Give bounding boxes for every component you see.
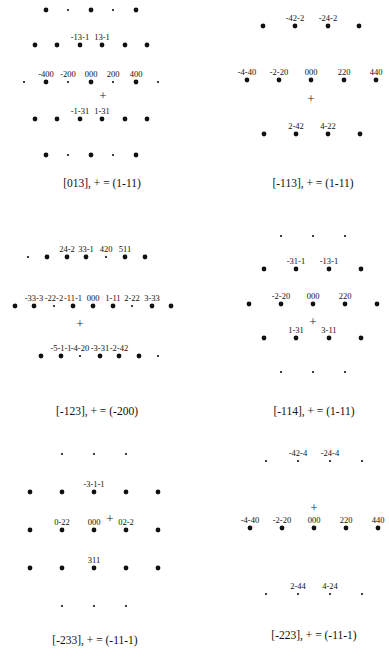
spot-index-label: 2-22 bbox=[124, 293, 140, 303]
panel-minus223: +-42-4-24-4-4-40-2-200002204402-444-24 bbox=[241, 448, 385, 595]
diffraction-spot bbox=[374, 78, 379, 83]
spot-index-label: 220 bbox=[339, 291, 352, 301]
diffraction-spot-weak bbox=[312, 235, 314, 237]
diffraction-spot bbox=[92, 566, 97, 571]
diffraction-spot-weak bbox=[265, 460, 267, 462]
spot-index-label: -4-20 bbox=[71, 343, 89, 353]
spot-index-label: -13-1 bbox=[71, 32, 89, 42]
diffraction-spot bbox=[344, 526, 349, 531]
spot-index-label: -24-4 bbox=[321, 448, 340, 458]
diffraction-spot bbox=[28, 490, 33, 495]
diffraction-spot-weak bbox=[297, 593, 299, 595]
spot-index-label: -400 bbox=[38, 69, 54, 79]
diffraction-spot-weak bbox=[361, 593, 363, 595]
spot-index-label: -2-42 bbox=[110, 343, 128, 353]
diffraction-spot bbox=[91, 304, 96, 309]
diffraction-spot bbox=[32, 304, 37, 309]
spot-index-label: -200 bbox=[60, 69, 76, 79]
plus-marker: + bbox=[309, 314, 316, 329]
spot-index-label: 440 bbox=[370, 67, 383, 77]
diffraction-spot-weak bbox=[344, 235, 346, 237]
diffraction-spot-weak bbox=[53, 305, 55, 307]
spot-index-label: 000 bbox=[85, 69, 98, 79]
diffraction-spot bbox=[145, 117, 150, 122]
diffraction-spot bbox=[60, 528, 65, 533]
diffraction-spot bbox=[150, 304, 155, 309]
spot-index-label: 000 bbox=[305, 67, 318, 77]
diffraction-spot bbox=[28, 528, 33, 533]
diffraction-spot-weak bbox=[112, 81, 114, 83]
diffraction-spot bbox=[277, 78, 282, 83]
spot-index-label: 511 bbox=[119, 244, 131, 254]
diffraction-spot-weak bbox=[67, 81, 69, 83]
spot-index-label: 33-1 bbox=[78, 244, 94, 254]
diffraction-spot bbox=[78, 43, 83, 48]
diffraction-spot bbox=[89, 8, 94, 13]
diffraction-spot-weak bbox=[157, 81, 159, 83]
spot-index-label: 3-11 bbox=[321, 325, 336, 335]
spot-index-label: -3-1-1 bbox=[83, 479, 104, 489]
diffraction-spot bbox=[123, 255, 128, 260]
spot-index-label: 220 bbox=[340, 515, 353, 525]
diffraction-spot-weak bbox=[23, 81, 25, 83]
diffraction-spot bbox=[156, 490, 161, 495]
diffraction-spot bbox=[358, 132, 363, 137]
caption-panel-minus113: [-113], + = (1-11) bbox=[272, 177, 353, 189]
diffraction-spot bbox=[59, 354, 64, 359]
caption-panel-minus123: [-123], + = (-200) bbox=[56, 405, 138, 417]
diffraction-spot bbox=[123, 117, 128, 122]
spot-index-label: -11-1 bbox=[64, 293, 82, 303]
diffraction-spot bbox=[60, 490, 65, 495]
diffraction-spot bbox=[261, 24, 266, 29]
diffraction-spot-weak bbox=[125, 453, 127, 455]
plus-marker: + bbox=[307, 91, 314, 106]
spot-index-label: -3-31 bbox=[91, 343, 109, 353]
spot-index-label: 420 bbox=[100, 244, 113, 254]
diffraction-spot bbox=[326, 132, 331, 137]
diffraction-spot bbox=[293, 24, 298, 29]
diffraction-spot bbox=[342, 78, 347, 83]
spot-index-label: -2-20 bbox=[270, 67, 288, 77]
panel-minus113: +-42-2-24-2-4-40-2-200002204402-424-22 bbox=[238, 13, 383, 136]
diffraction-spot bbox=[123, 43, 128, 48]
diffraction-spot bbox=[357, 24, 362, 29]
caption-panel-minus233: [-233], + = (-11-1) bbox=[52, 634, 137, 646]
spot-index-label: 311 bbox=[88, 555, 100, 565]
diffraction-spot bbox=[55, 43, 60, 48]
panel-minus114: +-31-1-13-1-2-200002201-313-11 bbox=[247, 235, 380, 373]
diffraction-spot bbox=[100, 117, 105, 122]
spot-index-label: 000 bbox=[307, 291, 320, 301]
diffraction-spot bbox=[111, 304, 116, 309]
diffraction-spot-weak bbox=[61, 605, 63, 607]
caption-panel-minus223: [-223], + = (-11-1) bbox=[271, 629, 356, 641]
diffraction-spot bbox=[124, 566, 129, 571]
plus-marker: + bbox=[76, 316, 83, 331]
diffraction-spot bbox=[247, 302, 252, 307]
spot-index-label: 3-33 bbox=[144, 293, 160, 303]
spot-index-label: -33-3 bbox=[25, 293, 43, 303]
spot-index-label: 220 bbox=[338, 67, 351, 77]
diffraction-spot bbox=[375, 302, 380, 307]
diffraction-spot-weak bbox=[125, 605, 127, 607]
diffraction-spot bbox=[343, 302, 348, 307]
spot-index-label: 1-11 bbox=[105, 293, 120, 303]
diffraction-spot-weak bbox=[93, 453, 95, 455]
spot-index-label: 0-22 bbox=[54, 517, 70, 527]
diffraction-spot-weak bbox=[361, 460, 363, 462]
spot-index-label: 000 bbox=[88, 517, 101, 527]
diffraction-spot bbox=[117, 354, 122, 359]
diffraction-spot bbox=[137, 354, 142, 359]
diffraction-spot bbox=[134, 153, 139, 158]
diffraction-spot-weak bbox=[79, 355, 81, 357]
spot-index-label: 2-42 bbox=[288, 121, 304, 131]
diffraction-spot bbox=[169, 304, 174, 309]
spot-index-label: 400 bbox=[130, 69, 143, 79]
spot-index-label: 02-2 bbox=[118, 517, 134, 527]
diffraction-spot bbox=[65, 255, 70, 260]
diffraction-spot-weak bbox=[329, 460, 331, 462]
caption-panel-minus114: [-114], + = (1-11) bbox=[273, 405, 354, 417]
panel-minus123: +24-233-1420511-33-3-22-2-11-10001-112-2… bbox=[13, 244, 174, 358]
spot-index-label: -22-2 bbox=[45, 293, 63, 303]
diffraction-spot bbox=[44, 153, 49, 158]
spot-index-label: -4-40 bbox=[238, 67, 256, 77]
